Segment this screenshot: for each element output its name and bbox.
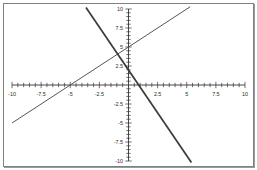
y-tick-label: 10 bbox=[117, 6, 123, 12]
x-tick-label: 10 bbox=[242, 91, 248, 97]
x-tick-label: 5 bbox=[185, 91, 188, 97]
y-tick-label: 5 bbox=[120, 44, 123, 50]
y-tick-label: 2.5 bbox=[116, 63, 124, 69]
x-tick-label: -10 bbox=[8, 91, 16, 97]
y-tick-label: -5 bbox=[118, 120, 123, 126]
y-tick-label: 7.5 bbox=[116, 25, 124, 31]
series-line-ascending-line bbox=[12, 7, 190, 123]
y-tick-label: -10 bbox=[115, 158, 123, 164]
y-tick-label: -7.5 bbox=[114, 139, 123, 145]
x-tick-label: 2.5 bbox=[154, 91, 162, 97]
x-tick-label: 7.5 bbox=[212, 91, 220, 97]
graph-frame: -10-7.5-5-2.52.557.510107.552.5-2.5-5-7.… bbox=[3, 3, 254, 167]
x-tick-label: -5 bbox=[68, 91, 73, 97]
y-tick-label: -2.5 bbox=[114, 101, 123, 107]
x-tick-label: -2.5 bbox=[95, 91, 104, 97]
x-tick-label: -7.5 bbox=[36, 91, 45, 97]
coordinate-plane-plot: -10-7.5-5-2.52.557.510107.552.5-2.5-5-7.… bbox=[4, 4, 253, 166]
